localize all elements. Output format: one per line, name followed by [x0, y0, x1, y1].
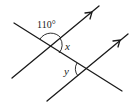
angle-label-110: 110° — [37, 19, 56, 30]
angle-arc-110 — [40, 33, 61, 39]
angle-label-x: x — [64, 40, 70, 52]
parallel-line-1 — [12, 6, 99, 78]
angle-label-y: y — [63, 65, 69, 77]
parallel-line-2 — [47, 34, 128, 101]
geometry-diagram: 110° x y — [0, 0, 135, 109]
angle-arc-x — [59, 38, 62, 53]
angle-arc-y — [75, 63, 78, 76]
transversal-line — [14, 23, 122, 91]
